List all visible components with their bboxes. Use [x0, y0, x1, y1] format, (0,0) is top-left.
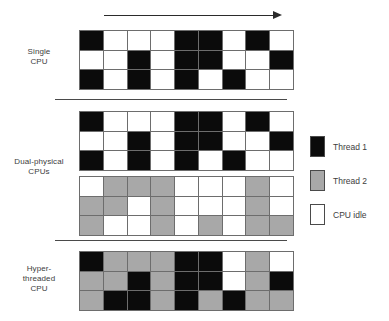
grid-cell: [270, 177, 293, 196]
grid-cell: [175, 151, 198, 170]
row-label-dual-physical-cpus: Dual-physical CPUs: [2, 157, 76, 177]
grid-cell: [151, 132, 174, 151]
grid-cell: [246, 197, 269, 216]
row-label-line: Hyper-: [2, 264, 76, 274]
grid-cell: [128, 177, 151, 196]
grid-cell: [104, 216, 127, 235]
grid-cell: [128, 216, 151, 235]
row-label-line: CPUs: [2, 167, 76, 177]
grid-cell: [223, 112, 246, 131]
grid-cell: [80, 31, 103, 50]
grid-cell: [175, 291, 198, 310]
grid-cell: [175, 31, 198, 50]
grid-cell: [80, 197, 103, 216]
grid-cell: [104, 272, 127, 291]
row-label-line: threaded: [2, 274, 76, 284]
grid-cell: [151, 216, 174, 235]
grid-cell: [199, 51, 222, 70]
grid-cell: [128, 151, 151, 170]
arrow-shaft: [104, 15, 274, 16]
grid-cell: [128, 31, 151, 50]
grid-cell: [151, 151, 174, 170]
grid-cell: [270, 197, 293, 216]
hyper-threaded-grid: [79, 251, 294, 311]
grid-cell: [175, 177, 198, 196]
grid-cell: [246, 51, 269, 70]
grid-cell: [223, 51, 246, 70]
grid-cell: [151, 197, 174, 216]
grid-cell: [246, 70, 269, 89]
grid-cell: [104, 252, 127, 271]
row-label-line: CPU: [2, 284, 76, 294]
grid-cell: [199, 70, 222, 89]
legend-label: CPU idle: [333, 210, 367, 220]
grid-cell: [175, 51, 198, 70]
grid-cell: [151, 112, 174, 131]
grid-cell: [223, 177, 246, 196]
grid-cell: [199, 132, 222, 151]
legend-swatch-icon: [310, 204, 325, 225]
grid-cell: [199, 216, 222, 235]
grid-cell: [199, 197, 222, 216]
grid-cell: [128, 132, 151, 151]
grid-cell: [175, 112, 198, 131]
single-cpu-grid: [79, 30, 294, 90]
grid-cell: [270, 31, 293, 50]
time-axis-arrow: [104, 10, 282, 22]
legend-swatch-icon: [310, 136, 325, 157]
grid-cell: [104, 197, 127, 216]
grid-cell: [104, 132, 127, 151]
grid-cell: [104, 70, 127, 89]
grid-cell: [270, 252, 293, 271]
grid-cell: [104, 177, 127, 196]
section-divider: [55, 240, 287, 241]
grid-cell: [80, 112, 103, 131]
grid-cell: [128, 272, 151, 291]
row-label-line: Dual-physical: [2, 157, 76, 167]
grid-cell: [223, 31, 246, 50]
grid-cell: [199, 252, 222, 271]
grid-cell: [199, 272, 222, 291]
grid-cell: [246, 132, 269, 151]
dual-cpu-grid-thread1: [79, 111, 294, 171]
grid-cell: [104, 51, 127, 70]
grid-cell: [104, 151, 127, 170]
grid-cell: [246, 151, 269, 170]
grid-cell: [270, 51, 293, 70]
legend: Thread 1 Thread 2 CPU idle: [310, 136, 386, 238]
grid-cell: [80, 272, 103, 291]
grid-cell: [151, 291, 174, 310]
grid-cell: [246, 177, 269, 196]
grid-cell: [128, 291, 151, 310]
grid-cell: [80, 216, 103, 235]
grid-cell: [175, 132, 198, 151]
grid-cell: [270, 272, 293, 291]
grid-cell: [128, 70, 151, 89]
grid-cell: [199, 31, 222, 50]
grid-cell: [175, 252, 198, 271]
legend-swatch-icon: [310, 170, 325, 191]
grid-cell: [151, 51, 174, 70]
grid-cell: [151, 252, 174, 271]
grid-cell: [175, 272, 198, 291]
grid-cell: [80, 252, 103, 271]
grid-cell: [80, 151, 103, 170]
grid-cell: [175, 197, 198, 216]
grid-cell: [199, 177, 222, 196]
grid-cell: [104, 112, 127, 131]
grid-cell: [246, 291, 269, 310]
legend-item-thread-2: Thread 2: [310, 170, 386, 191]
grid-cell: [151, 272, 174, 291]
grid-cell: [128, 197, 151, 216]
grid-cell: [223, 272, 246, 291]
grid-cell: [128, 51, 151, 70]
grid-cell: [270, 132, 293, 151]
grid-cell: [80, 291, 103, 310]
row-label-line: Single: [2, 47, 76, 57]
legend-item-thread-1: Thread 1: [310, 136, 386, 157]
legend-item-cpu-idle: CPU idle: [310, 204, 386, 225]
grid-cell: [270, 112, 293, 131]
row-label-single-cpu: Single CPU: [2, 47, 76, 67]
dual-cpu-grid-thread2: [79, 176, 294, 236]
grid-cell: [104, 291, 127, 310]
